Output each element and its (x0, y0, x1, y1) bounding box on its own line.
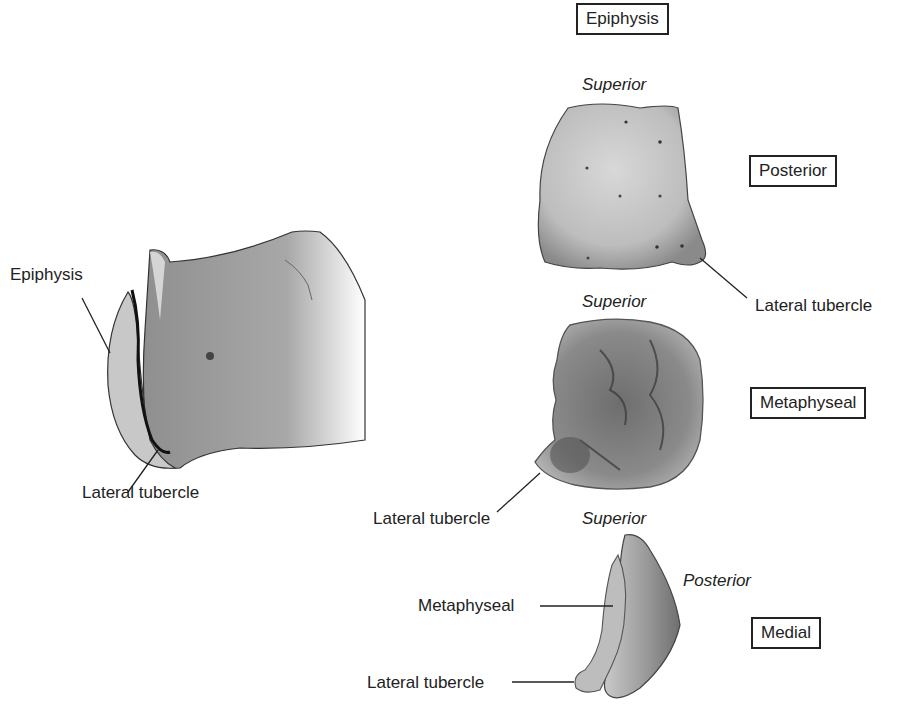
label-lateral-tubercle-posterior: Lateral tubercle (755, 297, 872, 314)
orientation-superior-medial-view: Superior (582, 510, 646, 527)
label-lateral-tubercle-left: Lateral tubercle (82, 484, 199, 501)
orientation-superior-posterior-view: Superior (582, 76, 646, 93)
leader-epiphysis-left (82, 298, 110, 353)
posterior-epiphysis-illustration (538, 104, 705, 269)
left-bone-illustration (108, 231, 365, 468)
leader-lateral-tubercle-posterior (700, 258, 747, 298)
orientation-posterior-medial-view: Posterior (683, 572, 751, 589)
medial-view-illustration (575, 535, 680, 698)
view-box-epiphysis: Epiphysis (576, 3, 669, 35)
view-box-posterior: Posterior (749, 155, 837, 187)
anatomy-figure: Epiphysis Lateral tubercle Epiphysis Sup… (0, 0, 901, 717)
orientation-superior-metaphyseal-view: Superior (582, 293, 646, 310)
view-box-metaphyseal: Metaphyseal (750, 387, 866, 419)
label-lateral-tubercle-medial: Lateral tubercle (367, 674, 484, 691)
metaphyseal-surface-illustration (535, 319, 703, 489)
label-lateral-tubercle-metaphyseal: Lateral tubercle (373, 510, 490, 527)
label-metaphyseal-medial: Metaphyseal (418, 597, 514, 614)
view-box-medial: Medial (751, 617, 821, 649)
label-epiphysis-left: Epiphysis (10, 266, 83, 283)
leader-lateral-tubercle-metaphyseal (497, 473, 540, 512)
